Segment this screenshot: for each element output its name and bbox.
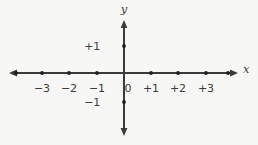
x-tick-label-pos2: +2 xyxy=(170,83,186,94)
y-axis-up-arrow-icon xyxy=(121,20,128,28)
y-axis-label: y xyxy=(121,4,127,15)
y-tick-label-neg1: −1 xyxy=(84,97,100,108)
x-tick-dot-neg1 xyxy=(95,71,99,75)
x-axis-endpoint-dot-left xyxy=(14,71,18,75)
x-tick-label-pos1: +1 xyxy=(143,83,159,94)
x-tick-dot-pos1 xyxy=(149,71,153,75)
x-tick-label-neg2: −2 xyxy=(61,83,77,94)
axes-svg xyxy=(0,0,258,145)
x-tick-dot-neg2 xyxy=(67,71,71,75)
y-tick-dot-neg1 xyxy=(122,100,126,104)
y-axis-down-arrow-icon xyxy=(121,128,128,136)
x-tick-dot-neg3 xyxy=(40,71,44,75)
x-tick-label-neg3: −3 xyxy=(34,83,50,94)
x-tick-dot-pos3 xyxy=(204,71,208,75)
x-tick-label-pos3: +3 xyxy=(198,83,214,94)
y-tick-label-pos1: +1 xyxy=(84,41,100,52)
x-tick-dot-pos2 xyxy=(176,71,180,75)
x-axis-label: x xyxy=(243,64,249,75)
x-axis-right-arrow-icon xyxy=(230,70,238,77)
x-tick-label-neg1: −1 xyxy=(89,83,105,94)
x-axis-endpoint-dot-right xyxy=(226,71,230,75)
y-tick-dot-pos1 xyxy=(122,44,126,48)
origin-label: 0 xyxy=(125,83,132,94)
coordinate-axes-figure: y x −3 −2 −1 0 +1 +2 +3 +1 −1 xyxy=(0,0,258,145)
